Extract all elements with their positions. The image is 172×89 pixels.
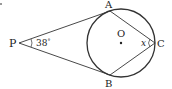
geometry-diagram: P A B C O 38° x [0, 0, 172, 89]
angle-p-value: 38° [36, 37, 50, 48]
angle-arc-c [149, 39, 151, 47]
label-a: A [104, 0, 113, 10]
label-c: C [157, 38, 165, 49]
corner-mark [0, 3, 2, 5]
angle-arc-p [31, 39, 32, 47]
chord-bc [110, 43, 155, 75]
tangent-pb [19, 43, 110, 75]
angle-c-value: x [141, 38, 146, 48]
center-dot [120, 42, 122, 44]
label-p: P [9, 37, 17, 50]
label-o: O [117, 28, 125, 39]
tangent-pa [19, 11, 110, 43]
label-b: B [105, 78, 112, 89]
